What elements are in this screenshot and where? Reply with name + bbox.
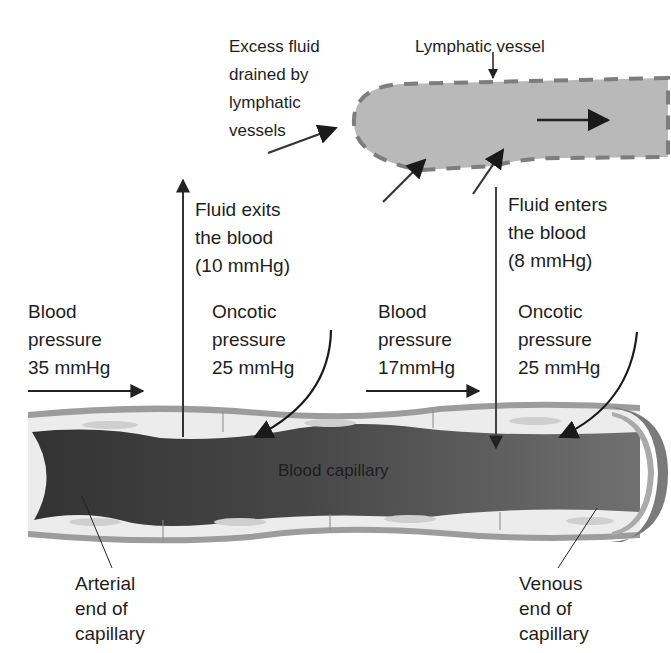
arterial-blood-pressure-label: Blood pressure 35 mmHg [28,301,110,378]
venous-end-label: Venous end of capillary [519,573,589,644]
excess-fluid-label: Excess fluid drained by lymphatic vessel… [229,37,324,140]
arterial-oncotic-pressure-label: Oncotic pressure 25 mmHg [212,301,294,378]
venous-blood-pressure-label: Blood pressure 17mmHg [378,301,457,378]
lymphatic-vessel [268,52,668,202]
fluid-enters-label: Fluid enters the blood (8 mmHg) [508,194,613,271]
blood-capillary: Blood capillary [28,402,668,544]
blood-capillary-label: Blood capillary [278,461,389,480]
capillary-exchange-diagram: Excess fluid drained by lymphatic vessel… [0,0,671,653]
fluid-exits-label: Fluid exits the blood (10 mmHg) [195,199,290,276]
venous-oncotic-pressure-label: Oncotic pressure 25 mmHg [518,301,600,378]
arterial-end-label: Arterial end of capillary [75,573,145,644]
lymphatic-vessel-label: Lymphatic vessel [415,37,545,56]
